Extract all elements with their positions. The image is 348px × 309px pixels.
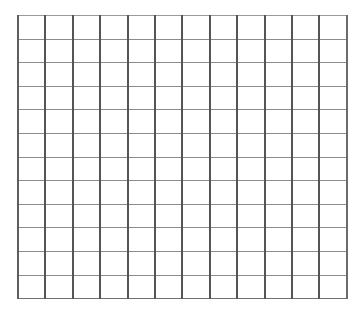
grid-cell[interactable]: [155, 228, 182, 252]
grid-cell[interactable]: [265, 39, 292, 63]
grid-cell[interactable]: [237, 110, 264, 134]
grid-cell[interactable]: [128, 228, 155, 252]
grid-cell[interactable]: [45, 39, 72, 63]
grid-cell[interactable]: [128, 181, 155, 205]
grid-cell[interactable]: [155, 204, 182, 228]
grid-cell[interactable]: [319, 181, 346, 205]
grid-cell[interactable]: [265, 181, 292, 205]
grid-cell[interactable]: [155, 181, 182, 205]
grid-cell[interactable]: [182, 275, 209, 299]
grid-cell[interactable]: [18, 275, 45, 299]
grid-cell[interactable]: [292, 275, 319, 299]
grid-cell[interactable]: [292, 110, 319, 134]
grid-cell[interactable]: [155, 63, 182, 87]
grid-cell[interactable]: [319, 86, 346, 110]
grid-cell[interactable]: [182, 110, 209, 134]
grid-cell[interactable]: [45, 133, 72, 157]
grid-cell[interactable]: [128, 157, 155, 181]
grid-cell[interactable]: [100, 157, 127, 181]
grid-cell[interactable]: [319, 157, 346, 181]
grid-cell[interactable]: [292, 16, 319, 40]
grid-cell[interactable]: [210, 133, 237, 157]
grid-cell[interactable]: [73, 86, 100, 110]
grid-cell[interactable]: [265, 157, 292, 181]
grid-cell[interactable]: [182, 228, 209, 252]
grid-cell[interactable]: [45, 110, 72, 134]
grid-cell[interactable]: [155, 86, 182, 110]
grid-cell[interactable]: [45, 228, 72, 252]
grid-cell[interactable]: [210, 157, 237, 181]
grid-cell[interactable]: [210, 275, 237, 299]
grid-cell[interactable]: [155, 251, 182, 275]
grid-cell[interactable]: [237, 86, 264, 110]
grid-cell[interactable]: [155, 16, 182, 40]
grid-cell[interactable]: [100, 133, 127, 157]
grid-cell[interactable]: [155, 157, 182, 181]
grid-cell[interactable]: [237, 157, 264, 181]
grid-cell[interactable]: [292, 251, 319, 275]
grid-cell[interactable]: [73, 181, 100, 205]
grid-cell[interactable]: [73, 110, 100, 134]
grid-cell[interactable]: [45, 63, 72, 87]
grid-cell[interactable]: [292, 181, 319, 205]
grid-cell[interactable]: [210, 39, 237, 63]
grid-cell[interactable]: [292, 86, 319, 110]
grid-cell[interactable]: [237, 275, 264, 299]
grid-cell[interactable]: [45, 251, 72, 275]
grid-cell[interactable]: [237, 251, 264, 275]
grid-cell[interactable]: [100, 204, 127, 228]
grid-cell[interactable]: [265, 133, 292, 157]
grid-cell[interactable]: [155, 39, 182, 63]
grid-cell[interactable]: [319, 133, 346, 157]
grid-cell[interactable]: [18, 157, 45, 181]
grid-cell[interactable]: [319, 63, 346, 87]
grid-cell[interactable]: [18, 228, 45, 252]
grid-cell[interactable]: [18, 16, 45, 40]
grid-cell[interactable]: [45, 204, 72, 228]
grid-cell[interactable]: [128, 133, 155, 157]
grid-cell[interactable]: [73, 133, 100, 157]
grid-cell[interactable]: [265, 204, 292, 228]
grid-cell[interactable]: [210, 86, 237, 110]
grid-cell[interactable]: [155, 133, 182, 157]
grid-cell[interactable]: [18, 133, 45, 157]
grid-cell[interactable]: [182, 86, 209, 110]
grid-cell[interactable]: [182, 39, 209, 63]
grid-cell[interactable]: [319, 110, 346, 134]
grid-cell[interactable]: [237, 39, 264, 63]
grid-cell[interactable]: [100, 16, 127, 40]
grid-cell[interactable]: [265, 63, 292, 87]
grid-cell[interactable]: [73, 16, 100, 40]
grid-cell[interactable]: [100, 181, 127, 205]
grid-cell[interactable]: [265, 228, 292, 252]
grid-cell[interactable]: [182, 63, 209, 87]
grid-cell[interactable]: [73, 39, 100, 63]
grid-cell[interactable]: [292, 157, 319, 181]
grid-cell[interactable]: [18, 63, 45, 87]
grid-cell[interactable]: [237, 181, 264, 205]
grid-cell[interactable]: [128, 39, 155, 63]
grid-cell[interactable]: [45, 181, 72, 205]
grid-cell[interactable]: [18, 110, 45, 134]
grid-cell[interactable]: [210, 228, 237, 252]
grid-cell[interactable]: [182, 204, 209, 228]
grid-cell[interactable]: [128, 275, 155, 299]
grid-cell[interactable]: [100, 251, 127, 275]
grid-cell[interactable]: [182, 181, 209, 205]
grid-cell[interactable]: [100, 63, 127, 87]
grid-cell[interactable]: [292, 204, 319, 228]
grid-cell[interactable]: [292, 39, 319, 63]
grid-cell[interactable]: [128, 204, 155, 228]
grid-cell[interactable]: [210, 251, 237, 275]
grid-cell[interactable]: [45, 275, 72, 299]
grid-cell[interactable]: [128, 16, 155, 40]
grid-cell[interactable]: [210, 181, 237, 205]
grid-cell[interactable]: [18, 86, 45, 110]
grid-cell[interactable]: [73, 63, 100, 87]
grid-cell[interactable]: [265, 251, 292, 275]
grid-cell[interactable]: [210, 16, 237, 40]
grid-cell[interactable]: [182, 157, 209, 181]
grid-cell[interactable]: [237, 16, 264, 40]
grid-cell[interactable]: [182, 16, 209, 40]
grid-cell[interactable]: [210, 63, 237, 87]
